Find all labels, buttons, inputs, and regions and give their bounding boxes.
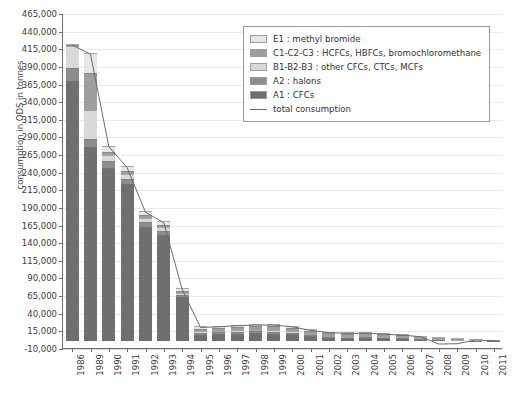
y-tick-label: 465,000 [22,9,63,19]
x-tick-label: 1993 [168,354,178,376]
legend-item-label: C1-C2-C3 : HCFCs, HBFCs, bromochlorometh… [273,48,481,58]
legend-color-swatch [250,63,267,71]
x-tick-label: 2009 [461,354,471,376]
y-tick-label: 140,000 [22,238,63,248]
x-tick-label: 2006 [406,354,416,376]
y-tick-label: 365,000 [22,80,63,90]
chart-legend: E1 : methyl bromideC1-C2-C3 : HCFCs, HBF… [243,26,490,122]
chart-root: consumption in ODS in tonnes 465,000440,… [0,0,518,398]
y-tick-label: 15,000 [27,326,63,336]
x-tick-label: 2004 [370,354,380,376]
y-tick-label: 165,000 [22,221,63,231]
y-tick-label: 190,000 [22,203,63,213]
x-tick-label: 2007 [425,354,435,376]
x-tick-label: 1996 [223,354,233,376]
x-tick-label: 1998 [260,354,270,376]
legend-color-swatch [250,91,267,99]
x-tick-label: 1989 [95,354,105,376]
legend-color-swatch [250,77,267,85]
y-tick-label: 415,000 [22,44,63,54]
y-tick-label: 115,000 [22,256,63,266]
y-tick-label: 215,000 [22,185,63,195]
y-tick-label: 90,000 [27,273,63,283]
x-tick-label: 1995 [205,354,215,376]
y-tick-label: 265,000 [22,150,63,160]
legend-color-swatch [250,49,267,57]
y-tick-label: 40,000 [27,309,63,319]
x-tick-label: 1990 [113,354,123,376]
y-tick-label: 290,000 [22,132,63,142]
y-tick-label: -10,000 [24,344,63,354]
y-tick-label: 440,000 [22,27,63,37]
x-tick-label: 2005 [388,354,398,376]
legend-item[interactable]: A1 : CFCs [250,88,481,102]
legend-item[interactable]: A2 : halons [250,74,481,88]
x-tick-label: 1997 [241,354,251,376]
x-tick-label: 2011 [498,354,508,376]
legend-color-swatch [250,35,267,43]
y-tick-label: 390,000 [22,62,63,72]
x-tick-label: 1994 [186,354,196,376]
x-tick-label: 2010 [480,354,490,376]
y-tick-label: 315,000 [22,115,63,125]
legend-item-label: total consumption [273,104,351,114]
legend-item-label: A2 : halons [273,76,321,86]
legend-item[interactable]: C1-C2-C3 : HCFCs, HBFCs, bromochlorometh… [250,46,481,60]
legend-item-label: B1-B2-B3 : other CFCs, CTCs, MCFs [273,62,423,72]
x-tick-label: 1992 [150,354,160,376]
legend-item[interactable]: E1 : methyl bromide [250,32,481,46]
x-tick-label: 2008 [443,354,453,376]
y-tick-label: 240,000 [22,168,63,178]
y-tick-label: 65,000 [27,291,63,301]
legend-item[interactable]: B1-B2-B3 : other CFCs, CTCs, MCFs [250,60,481,74]
x-tick-label: 2003 [351,354,361,376]
x-tick-label: 1986 [76,354,86,376]
legend-item-label: E1 : methyl bromide [273,34,361,44]
x-tick-label: 1991 [131,354,141,376]
grid-line [63,349,502,350]
y-tick-label: 340,000 [22,97,63,107]
x-tick-label: 2001 [315,354,325,376]
legend-line-swatch [250,105,267,113]
x-tick-label: 2000 [296,354,306,376]
legend-item[interactable]: total consumption [250,102,481,116]
x-tick-label: 1999 [278,354,288,376]
x-tick-label: 2002 [333,354,343,376]
legend-item-label: A1 : CFCs [273,90,314,100]
